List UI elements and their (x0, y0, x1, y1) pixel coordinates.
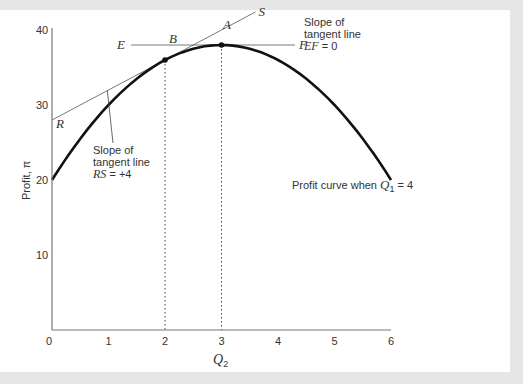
x-tick-label: 2 (162, 335, 168, 347)
x-tick-label: 6 (388, 335, 394, 347)
rs-slope-note: Slope of tangent line RS = +4 (92, 144, 150, 181)
x-tick-labels: 0123456 (46, 335, 394, 347)
curve-label: Profit curve when Q1 = 4 (292, 177, 413, 194)
y-tick-label: 40 (36, 24, 48, 36)
y-tick-labels: 10203040 (36, 24, 48, 261)
x-tick-label: 1 (106, 335, 112, 347)
x-tick-label: 3 (219, 335, 225, 347)
point-b-marker (162, 57, 168, 63)
y-tick-label: 30 (36, 99, 48, 111)
y-tick-label: 20 (36, 174, 48, 186)
x-tick-label: 4 (275, 335, 281, 347)
y-axis-title: Profit, π (20, 160, 32, 200)
point-e-label: E (116, 37, 125, 52)
y-tick-label: 10 (36, 249, 48, 261)
point-a-label: A (222, 17, 231, 32)
svg-text:Slope of: Slope of (304, 16, 345, 28)
x-tick-label: 0 (46, 335, 52, 347)
svg-text:EF = 0: EF = 0 (303, 39, 337, 53)
x-tick-label: 5 (332, 335, 338, 347)
point-a-marker (219, 42, 225, 48)
profit-chart: 0123456 10203040 A B R S E F Slope of ta… (0, 0, 523, 384)
point-r-label: R (55, 116, 64, 131)
ef-slope-note: Slope of tangent line EF = 0 (303, 16, 361, 53)
point-s-label: S (258, 4, 265, 19)
svg-text:RS = +4: RS = +4 (92, 167, 131, 181)
rs-note-leader (107, 91, 113, 143)
svg-text:Slope of: Slope of (93, 144, 134, 156)
x-axis-title: Q2 (213, 352, 228, 369)
point-b-label: B (169, 31, 177, 46)
